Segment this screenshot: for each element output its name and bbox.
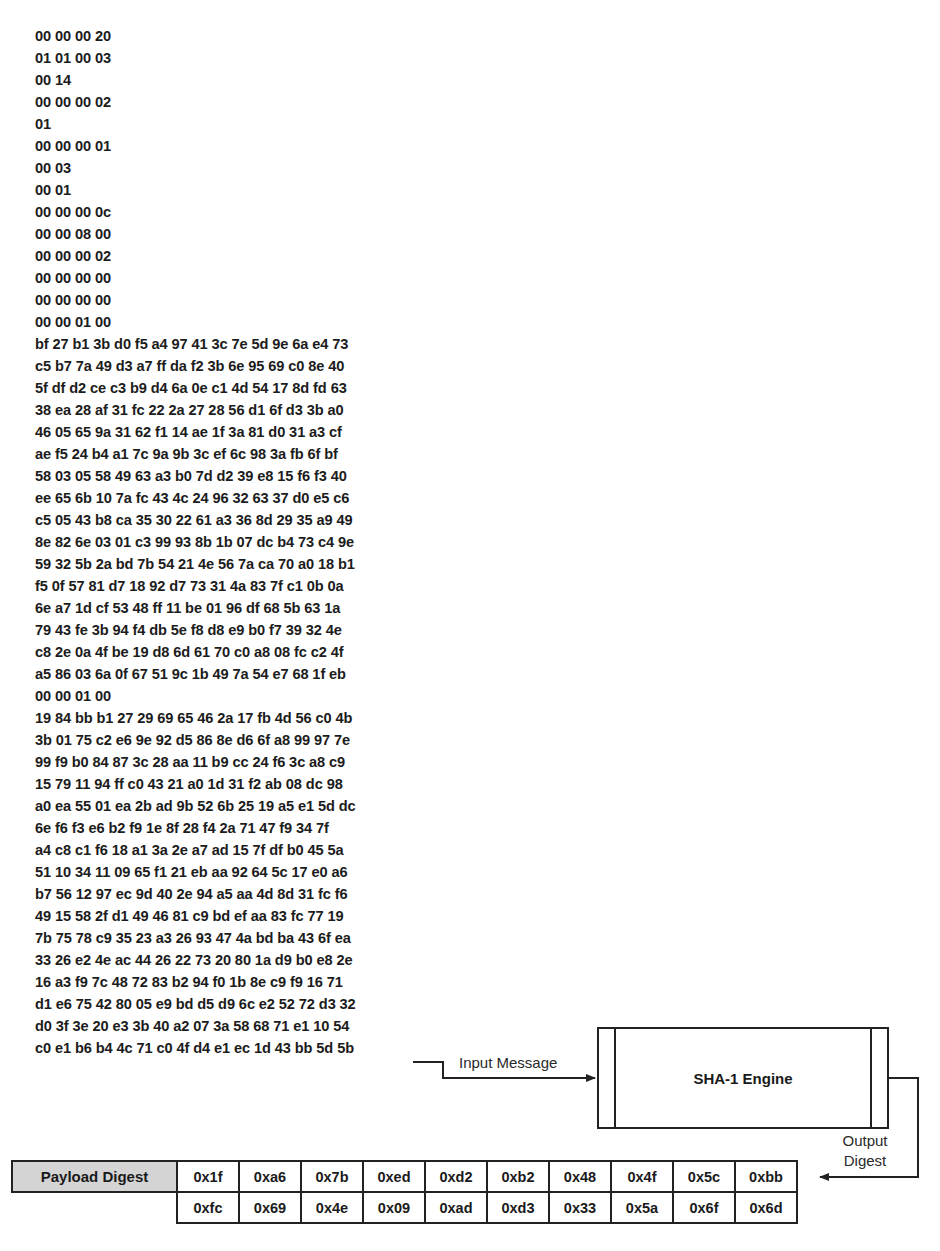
digest-cell: 0x48: [549, 1161, 611, 1192]
empty-cell: [12, 1192, 177, 1223]
output-digest-label: Output Digest: [832, 1131, 898, 1171]
digest-cell: 0x7b: [301, 1161, 363, 1192]
digest-cell: 0x5a: [611, 1192, 673, 1223]
digest-cell: 0x09: [363, 1192, 425, 1223]
output-label-line2: Digest: [832, 1151, 898, 1171]
digest-cell: 0xbb: [735, 1161, 797, 1192]
payload-digest-table: Payload Digest 0x1f 0xa6 0x7b 0xed 0xd2 …: [11, 1160, 798, 1224]
digest-cell: 0xed: [363, 1161, 425, 1192]
digest-row-1: Payload Digest 0x1f 0xa6 0x7b 0xed 0xd2 …: [12, 1161, 797, 1192]
digest-cell: 0xd2: [425, 1161, 487, 1192]
digest-cell: 0x6d: [735, 1192, 797, 1223]
digest-cell: 0x69: [239, 1192, 301, 1223]
digest-row-2: 0xfc 0x69 0x4e 0x09 0xad 0xd3 0x33 0x5a …: [12, 1192, 797, 1223]
digest-cell: 0x5c: [673, 1161, 735, 1192]
digest-cell: 0xa6: [239, 1161, 301, 1192]
sha1-engine-block: SHA-1 Engine: [597, 1027, 889, 1129]
digest-cell: 0x1f: [177, 1161, 239, 1192]
digest-cell: 0x6f: [673, 1192, 735, 1223]
output-label-line1: Output: [832, 1131, 898, 1151]
engine-title: SHA-1 Engine: [616, 1029, 870, 1127]
digest-cell: 0xd3: [487, 1192, 549, 1223]
digest-cell: 0xb2: [487, 1161, 549, 1192]
digest-cell: 0x4e: [301, 1192, 363, 1223]
engine-right-bar: [870, 1029, 872, 1127]
digest-cell: 0xad: [425, 1192, 487, 1223]
digest-cell: 0x4f: [611, 1161, 673, 1192]
payload-digest-header: Payload Digest: [12, 1161, 177, 1192]
digest-cell: 0x33: [549, 1192, 611, 1223]
input-message-label: Input Message: [459, 1054, 557, 1071]
digest-cell: 0xfc: [177, 1192, 239, 1223]
